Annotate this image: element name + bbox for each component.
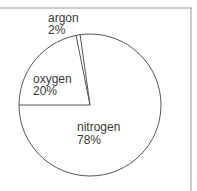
label-nitrogen-pct: 78%	[77, 134, 101, 146]
label-argon-pct: 2%	[48, 24, 65, 36]
label-oxygen-pct: 20%	[33, 85, 57, 97]
label-nitrogen-name: nitrogen	[77, 121, 120, 133]
pie-chart: argon 2% oxygen 20% nitrogen 78%	[0, 0, 197, 191]
pie-chart-graphic	[0, 0, 197, 191]
